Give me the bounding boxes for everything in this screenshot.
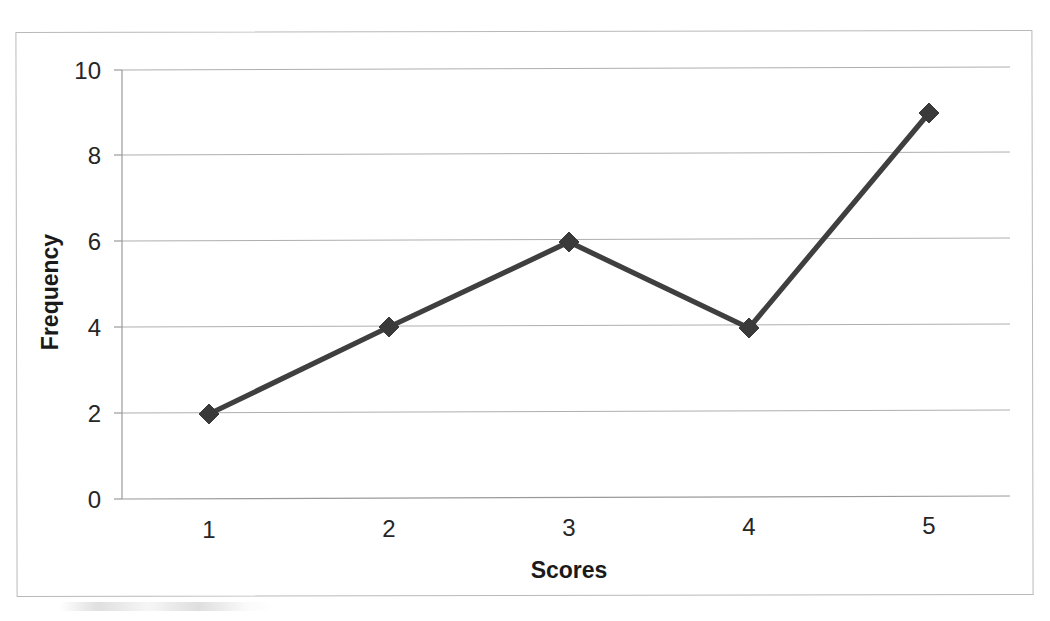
data-point-3 — [559, 232, 579, 252]
y-tick-label-0: 0 — [88, 486, 101, 513]
chart-screenshot: 10 8 6 4 2 0 1 2 3 4 5 — [0, 0, 1050, 621]
gridline-2 — [122, 410, 1010, 413]
chart-canvas: 10 8 6 4 2 0 1 2 3 4 5 — [0, 0, 1050, 621]
x-tick-label-3: 3 — [562, 514, 575, 541]
gridline-10 — [122, 67, 1010, 70]
data-point-2 — [379, 317, 399, 337]
y-tick-label-4: 4 — [88, 314, 101, 341]
y-tick-label-2: 2 — [88, 400, 101, 427]
y-axis-title: Frequency — [37, 234, 63, 351]
x-tick-label-4: 4 — [742, 513, 755, 540]
series-markers — [199, 103, 939, 424]
y-axis-ticks — [114, 70, 122, 499]
x-axis-line — [122, 496, 1010, 499]
series-line-frequency — [209, 113, 929, 414]
x-tick-label-2: 2 — [382, 515, 395, 542]
x-tick-label-1: 1 — [202, 516, 215, 543]
gridline-4 — [122, 324, 1010, 327]
line-chart: 10 8 6 4 2 0 1 2 3 4 5 — [0, 0, 1050, 621]
y-tick-label-10: 10 — [74, 57, 101, 84]
y-tick-label-8: 8 — [88, 142, 101, 169]
gridline-8 — [122, 152, 1010, 155]
x-axis-tick-labels: 1 2 3 4 5 — [202, 512, 935, 543]
y-tick-label-6: 6 — [88, 228, 101, 255]
x-tick-label-5: 5 — [922, 512, 935, 539]
data-point-1 — [199, 404, 219, 424]
x-axis-title: Scores — [531, 557, 608, 583]
y-axis-tick-labels: 10 8 6 4 2 0 — [74, 57, 101, 513]
